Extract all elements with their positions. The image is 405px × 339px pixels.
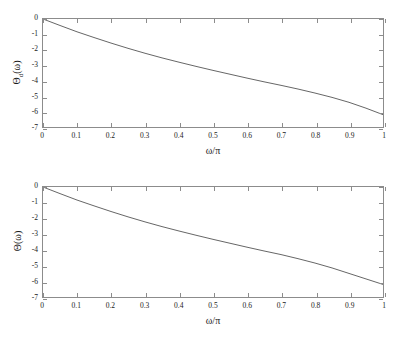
y-tick-right [379,299,383,300]
phase-curve-bottom [43,187,383,297]
x-tick [385,293,386,297]
x-tick-label: 0 [40,302,44,310]
x-tick-label: 0.8 [311,302,320,310]
x-tick-label: 0.6 [243,132,252,140]
x-tick-top [180,187,181,191]
x-tick [317,293,318,297]
y-tick [43,82,47,83]
x-tick-label: 0.3 [140,302,149,310]
x-tick-top [214,19,215,23]
y-tick-right [379,283,383,284]
figure-canvas: 00.10.20.30.40.50.60.70.80.91 0-1-2-3-4-… [0,0,405,339]
x-tick-top [180,19,181,23]
x-tick [214,293,215,297]
x-tick [146,293,147,297]
x-tick-top [146,19,147,23]
phase-curve-top [43,19,383,127]
y-tick-right [379,82,383,83]
y-tick-label: -6 [20,278,38,286]
x-tick [385,123,386,127]
y-tick [43,235,47,236]
y-tick-label: -7 [20,124,38,132]
x-tick-top [111,19,112,23]
y-tick [43,299,47,300]
chart-panel-top: 00.10.20.30.40.50.60.70.80.91 0-1-2-3-4-… [0,0,405,169]
y-tick-right [379,98,383,99]
y-tick-label: 0 [20,182,38,190]
x-tick [77,293,78,297]
y-tick [43,187,47,188]
y-tick-right [379,187,383,188]
x-tick [146,123,147,127]
x-tick-label: 0.9 [345,302,354,310]
x-tick-top [248,187,249,191]
y-tick [43,203,47,204]
x-tick-top [77,19,78,23]
y-axis-title-top: Θd(ω) [12,43,25,103]
x-tick-top [214,187,215,191]
y-axis-title-arg-top: (ω) [11,61,22,74]
x-axis-title-top: ω/π [42,146,384,156]
y-tick-label: -6 [20,109,38,117]
y-tick [43,35,47,36]
x-tick [351,123,352,127]
x-tick-top [282,19,283,23]
x-tick-label: 0.6 [243,302,252,310]
y-tick [43,267,47,268]
x-tick-label: 0.8 [311,132,320,140]
y-axis-title-sub-top: d [17,74,25,78]
x-tick [111,293,112,297]
y-tick-right [379,129,383,130]
y-tick-right [379,219,383,220]
x-tick [282,293,283,297]
y-axis-title-arg-bottom: (ω) [12,231,23,244]
y-tick [43,98,47,99]
x-tick-label: 0 [40,132,44,140]
x-tick-label: 0.2 [106,302,115,310]
y-tick [43,113,47,114]
y-tick [43,129,47,130]
x-tick [77,123,78,127]
x-tick-label: 0.5 [208,302,217,310]
x-tick-label: 0.1 [72,302,81,310]
y-tick [43,19,47,20]
y-tick-label: -1 [20,198,38,206]
y-tick-right [379,113,383,114]
x-tick-label: 0.7 [277,132,286,140]
x-tick-top [317,19,318,23]
x-tick [111,123,112,127]
x-tick-top [351,187,352,191]
y-tick [43,50,47,51]
x-tick-label: 0.4 [174,132,183,140]
x-tick [214,123,215,127]
y-tick-right [379,203,383,204]
x-tick-top [248,19,249,23]
x-tick-label: 0.3 [140,132,149,140]
y-axis-title-base-bottom: Θ [12,244,23,251]
y-tick [43,251,47,252]
x-tick-label: 0.2 [106,132,115,140]
x-tick-top [282,187,283,191]
x-tick-top [351,19,352,23]
x-tick-label: 0.9 [345,132,354,140]
x-tick [248,123,249,127]
x-tick-top [317,187,318,191]
x-tick [317,123,318,127]
y-tick [43,66,47,67]
y-tick-right [379,35,383,36]
plot-area-top [42,18,384,128]
y-tick-label: -7 [20,294,38,302]
plot-area-bottom [42,186,384,298]
x-tick [180,293,181,297]
x-tick-label: 1 [382,302,386,310]
x-tick [248,293,249,297]
y-tick [43,219,47,220]
y-tick-right [379,235,383,236]
y-tick-right [379,19,383,20]
y-axis-title-base-top: Θ [11,77,22,84]
x-tick-label: 0.1 [72,132,81,140]
x-tick [43,293,44,297]
y-tick-label: 0 [20,14,38,22]
x-tick-label: 0.4 [174,302,183,310]
chart-panel-bottom: 00.10.20.30.40.50.60.70.80.91 0-1-2-3-4-… [0,170,405,339]
